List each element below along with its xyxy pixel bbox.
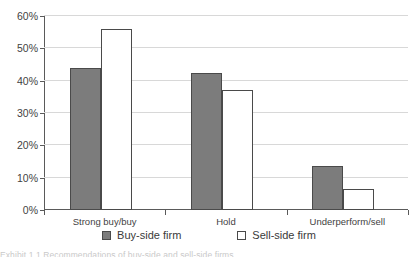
- bar-buyside-2: [312, 166, 343, 210]
- legend-entry-1: Sell-side firm: [237, 229, 316, 241]
- bar-chart-figure: 0%10%20%30%40%50%60% Strong buy/buyHoldU…: [0, 0, 418, 257]
- clipped-caption: Exhibit 1.1 Recommendations of buy-side …: [0, 250, 418, 257]
- filled-square-swatch: [102, 231, 111, 240]
- plot-area: [44, 16, 408, 210]
- category-separator-start: [44, 210, 45, 215]
- gridline-60: [44, 15, 408, 16]
- y-tick-label-40: 40%: [0, 75, 38, 87]
- gridline-50: [44, 47, 408, 48]
- legend-label-1: Sell-side firm: [252, 229, 316, 241]
- category-separator-2: [408, 210, 409, 215]
- legend-label-0: Buy-side firm: [117, 229, 181, 241]
- bar-sellside-2: [343, 189, 374, 210]
- x-axis-label-2: Underperform/sell: [310, 216, 386, 227]
- chart-legend: Buy-side firmSell-side firm: [0, 229, 418, 241]
- category-separator-0: [165, 210, 166, 215]
- y-tick-label-30: 30%: [0, 107, 38, 119]
- bar-buyside-0: [70, 68, 101, 210]
- legend-entry-0: Buy-side firm: [102, 229, 181, 241]
- x-axis-label-0: Strong buy/buy: [73, 216, 137, 227]
- y-tick-label-0: 0%: [0, 204, 38, 216]
- category-separator-1: [287, 210, 288, 215]
- bar-sellside-0: [101, 29, 132, 210]
- y-tick-label-20: 20%: [0, 139, 38, 151]
- bar-buyside-1: [191, 73, 222, 210]
- x-axis-label-1: Hold: [216, 216, 236, 227]
- hollow-square-swatch: [237, 231, 246, 240]
- y-tick-label-10: 10%: [0, 172, 38, 184]
- y-tick-label-60: 60%: [0, 10, 38, 22]
- y-tick-label-50: 50%: [0, 42, 38, 54]
- bar-sellside-1: [222, 90, 253, 210]
